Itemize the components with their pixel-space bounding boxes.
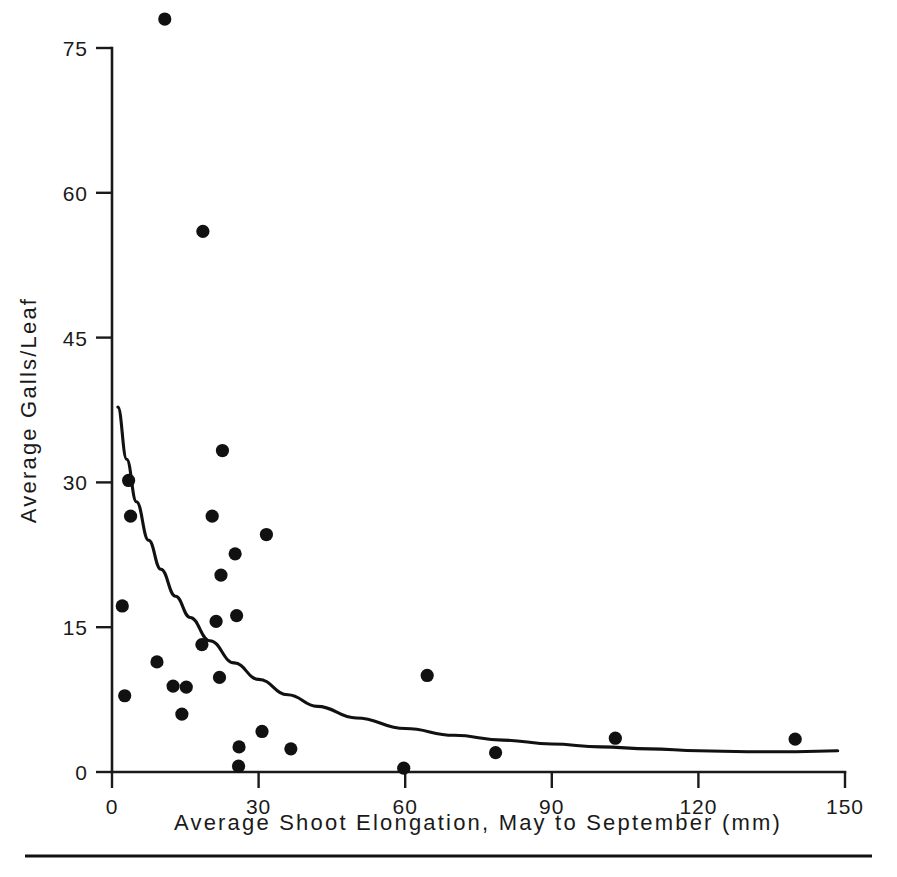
data-point — [284, 742, 297, 755]
data-point — [260, 528, 273, 541]
y-axis-title: Average Galls/Leaf — [16, 297, 41, 523]
data-point — [489, 746, 502, 759]
data-point — [116, 599, 129, 612]
y-tick-label: 45 — [63, 327, 88, 350]
data-point — [213, 671, 226, 684]
data-point — [397, 762, 410, 775]
data-point — [166, 679, 179, 692]
y-axis-ticks — [96, 48, 112, 772]
data-point — [175, 707, 188, 720]
y-tick-label: 60 — [63, 182, 88, 205]
y-tick-label: 0 — [75, 761, 88, 784]
data-point — [232, 740, 245, 753]
data-point — [789, 733, 802, 746]
figure-container: 01530456075 0306090120150 Average Shoot … — [0, 0, 897, 877]
data-point — [209, 615, 222, 628]
data-point — [421, 669, 434, 682]
data-point — [216, 444, 229, 457]
data-point — [214, 568, 227, 581]
data-point — [118, 689, 131, 702]
data-point — [229, 547, 242, 560]
y-tick-label: 15 — [63, 616, 88, 639]
x-tick-label: 150 — [826, 795, 864, 818]
scatter-plot: 01530456075 0306090120150 Average Shoot … — [0, 0, 897, 877]
data-point — [196, 225, 209, 238]
data-point — [230, 609, 243, 622]
x-axis-title: Average Shoot Elongation, May to Septemb… — [174, 810, 782, 835]
data-point — [609, 732, 622, 745]
data-point — [158, 12, 171, 25]
y-axis-tick-labels: 01530456075 — [63, 37, 88, 784]
x-axis-ticks — [112, 772, 845, 788]
data-point — [195, 638, 208, 651]
data-point — [206, 510, 219, 523]
y-tick-label: 30 — [63, 471, 88, 494]
data-points-group — [116, 12, 802, 774]
x-tick-label: 0 — [106, 795, 119, 818]
data-point — [232, 760, 245, 773]
data-point — [122, 474, 135, 487]
data-point — [255, 725, 268, 738]
data-point — [180, 680, 193, 693]
data-point — [150, 655, 163, 668]
y-tick-label: 75 — [63, 37, 88, 60]
data-point — [124, 510, 137, 523]
